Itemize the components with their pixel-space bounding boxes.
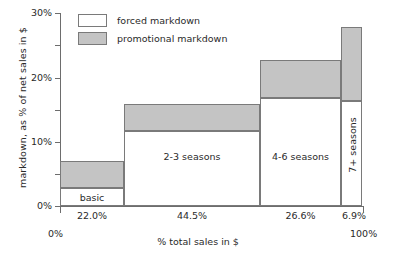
markdown-by-season-chart: markdown, as % of net sales in $ 30% 20%… <box>0 0 396 257</box>
x-axis-line <box>60 206 364 207</box>
x-width-label-7-plus-seasons: 6.9% <box>333 210 375 221</box>
x-axis-endpoint-tick-100 <box>363 206 364 213</box>
bar-basic-promotional-segment <box>60 161 124 188</box>
x-axis-endpoint-tick-0 <box>60 206 61 213</box>
bar-label-7-plus-seasons: 7+ seasons <box>346 100 357 190</box>
x-width-label-2-3-seasons: 44.5% <box>124 210 260 221</box>
x-axis-label: % total sales in $ <box>0 236 396 247</box>
legend-item-promotional-markdown[interactable]: promotional markdown <box>78 30 227 46</box>
legend-label-promotional-markdown: promotional markdown <box>117 33 227 44</box>
bar-2-3-seasons-promotional-segment <box>124 104 260 131</box>
y-axis-label: markdown, as % of net sales in $ <box>17 8 28 208</box>
bar-7-plus-seasons[interactable]: 7+ seasons <box>341 27 362 206</box>
legend: forced markdown promotional markdown <box>78 12 227 48</box>
y-axis-tick-label-10: 10% <box>0 136 52 147</box>
bar-4-6-seasons-promotional-segment <box>260 60 341 98</box>
bar-label-4-6-seasons: 4-6 seasons <box>260 151 341 162</box>
y-axis-tick-label-20: 20% <box>0 72 52 83</box>
bar-label-2-3-seasons: 2-3 seasons <box>124 151 260 162</box>
legend-label-forced-markdown: forced markdown <box>117 15 200 26</box>
x-width-label-4-6-seasons: 26.6% <box>260 210 341 221</box>
bar-2-3-seasons[interactable]: 2-3 seasons <box>124 104 260 206</box>
y-axis-tick-label-30: 30% <box>0 7 52 18</box>
legend-swatch-promotional-markdown <box>78 32 107 45</box>
bar-4-6-seasons[interactable]: 4-6 seasons <box>260 60 341 206</box>
legend-swatch-forced-markdown <box>78 14 107 27</box>
legend-item-forced-markdown[interactable]: forced markdown <box>78 12 227 28</box>
bar-2-3-seasons-forced-segment <box>124 131 260 206</box>
bar-label-basic: basic <box>60 192 124 203</box>
y-axis-tick-label-0: 0% <box>0 200 52 211</box>
x-width-label-basic: 22.0% <box>60 210 124 221</box>
bar-basic[interactable]: basic <box>60 161 124 206</box>
bar-7-plus-seasons-promotional-segment <box>341 27 362 101</box>
